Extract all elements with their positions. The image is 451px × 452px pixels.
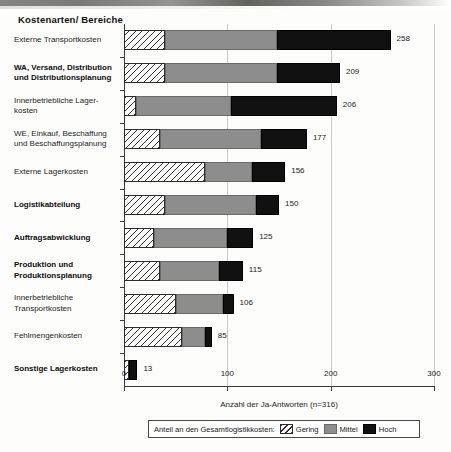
category-label-line: Fehlmengenkosten: [14, 331, 120, 342]
bar-segment-mittel[interactable]: [165, 30, 277, 50]
category-label-line: Auftragsabwicklung: [14, 233, 120, 244]
bar-segment-mittel[interactable]: [154, 228, 227, 248]
chart-canvas: Kostenarten/ Bereiche 258209206177156150…: [0, 0, 451, 452]
category-label: Externe Transportkosten: [14, 35, 120, 46]
y-tick-10: [120, 353, 124, 354]
category-label: WA, Versand, Distributionund Distributio…: [14, 63, 120, 84]
legend-swatch-hoch-icon: [363, 424, 376, 434]
category-label-line: Logistikabteilung: [14, 200, 120, 211]
bar-segment-gering[interactable]: [124, 195, 165, 215]
category-label: Externe Lagerkosten: [14, 167, 120, 178]
bar-segment-mittel[interactable]: [136, 96, 231, 116]
category-label-line: Innerbetriebliche Lager-: [14, 96, 120, 107]
bar-segment-hoch[interactable]: [227, 228, 253, 248]
y-tick-4: [120, 156, 124, 157]
legend-swatch-gering-icon: [280, 424, 293, 434]
bar-segment-mittel[interactable]: [160, 129, 261, 149]
bar-segment-hoch[interactable]: [129, 360, 137, 380]
category-label: Auftragsabwicklung: [14, 233, 120, 244]
bar-segment-mittel[interactable]: [165, 195, 256, 215]
bar-segment-gering[interactable]: [124, 30, 165, 50]
category-label-line: WE, Einkauf, Beschaffung: [14, 129, 120, 140]
category-label-line: kosten: [14, 106, 120, 117]
category-label-line: Produktionsplanung: [14, 271, 120, 282]
plot-area: 2582092061771561501251151068513: [124, 24, 434, 386]
y-tick-7: [120, 254, 124, 255]
x-axis-title: Anzahl der Ja-Antworten (n=316): [124, 400, 434, 409]
category-label-line: Transportkosten: [14, 304, 120, 315]
x-tick-0: [124, 386, 125, 391]
legend-label-hoch: Hoch: [379, 425, 397, 434]
category-label: Fehlmengenkosten: [14, 331, 120, 342]
category-label: Produktion undProduktionsplanung: [14, 260, 120, 281]
bar-segment-hoch[interactable]: [277, 63, 340, 83]
scan-artifact-band-secondary: [0, 6, 451, 9]
bar-segment-mittel[interactable]: [160, 261, 219, 281]
x-tick-300: [434, 386, 435, 391]
bar-segment-hoch[interactable]: [223, 294, 233, 314]
category-label-line: und Beschaffungsplanung: [14, 139, 120, 150]
y-tick-5: [120, 189, 124, 190]
bar-segment-gering[interactable]: [124, 261, 160, 281]
bar-value-label: 206: [343, 100, 356, 109]
chart-legend: Anteil an den Gesamtlogistikkosten: Geri…: [148, 420, 420, 438]
bar-segment-gering[interactable]: [124, 228, 154, 248]
x-tick-100: [227, 386, 228, 391]
y-tick-1: [120, 57, 124, 58]
category-label-line: Sonstige Lagerkosten: [14, 364, 120, 375]
bar-value-label: 125: [259, 232, 272, 241]
y-tick-6: [120, 221, 124, 222]
legend-label-mittel: Mittel: [340, 425, 358, 434]
bar-segment-hoch[interactable]: [256, 195, 279, 215]
bar-segment-gering[interactable]: [124, 129, 160, 149]
bar-value-label: 209: [346, 67, 359, 76]
category-label: Sonstige Lagerkosten: [14, 364, 120, 375]
bar-segment-hoch[interactable]: [219, 261, 243, 281]
legend-item-mittel[interactable]: Mittel: [324, 424, 358, 434]
bar-segment-hoch[interactable]: [277, 30, 391, 50]
bar-segment-mittel[interactable]: [165, 63, 277, 83]
bar-segment-hoch[interactable]: [205, 327, 212, 347]
x-tick-label-200: 200: [324, 369, 337, 378]
chart-title: Kostenarten/ Bereiche: [18, 14, 123, 25]
bar-segment-gering[interactable]: [124, 162, 205, 182]
y-tick-3: [120, 123, 124, 124]
legend-swatch-mittel-icon: [324, 424, 337, 434]
bar-value-label: 115: [249, 265, 262, 274]
bar-segment-gering[interactable]: [124, 96, 136, 116]
gridline-300: [434, 24, 435, 386]
bar-segment-gering[interactable]: [124, 63, 165, 83]
category-label: Logistikabteilung: [14, 200, 120, 211]
category-label: InnerbetrieblicheTransportkosten: [14, 293, 120, 314]
bar-segment-mittel[interactable]: [182, 327, 205, 347]
bar-value-label: 156: [291, 166, 304, 175]
x-tick-label-0: 0: [122, 369, 126, 378]
bar-value-label: 177: [313, 133, 326, 142]
x-tick-200: [331, 386, 332, 391]
category-label-line: Externe Transportkosten: [14, 35, 120, 46]
legend-item-hoch[interactable]: Hoch: [363, 424, 397, 434]
category-label: Innerbetriebliche Lager-kosten: [14, 96, 120, 117]
y-tick-2: [120, 90, 124, 91]
category-label-line: Externe Lagerkosten: [14, 167, 120, 178]
legend-item-gering[interactable]: Gering: [280, 424, 319, 434]
category-label-line: Produktion und: [14, 260, 120, 271]
y-tick-9: [120, 320, 124, 321]
bar-value-label: 13: [143, 364, 152, 373]
bar-segment-hoch[interactable]: [261, 129, 306, 149]
bar-segment-gering[interactable]: [124, 294, 176, 314]
legend-title: Anteil an den Gesamtlogistikkosten:: [154, 425, 275, 434]
bar-value-label: 106: [240, 298, 253, 307]
bar-segment-hoch[interactable]: [252, 162, 285, 182]
bar-value-label: 150: [285, 199, 298, 208]
bar-segment-mittel[interactable]: [176, 294, 224, 314]
x-axis-line: [124, 386, 435, 387]
bar-segment-mittel[interactable]: [205, 162, 253, 182]
x-tick-label-300: 300: [427, 369, 440, 378]
category-label-line: Innerbetriebliche: [14, 293, 120, 304]
bar-segment-gering[interactable]: [124, 327, 182, 347]
legend-label-gering: Gering: [296, 425, 319, 434]
bar-value-label: 85: [218, 331, 227, 340]
category-label: WE, Einkauf, Beschaffungund Beschaffungs…: [14, 129, 120, 150]
bar-segment-hoch[interactable]: [231, 96, 336, 116]
